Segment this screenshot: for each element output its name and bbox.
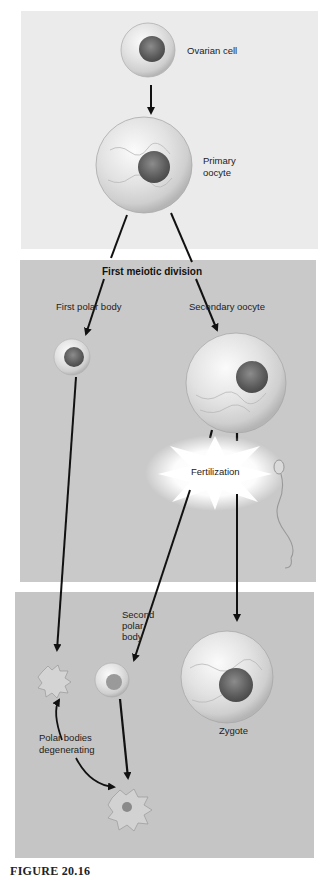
- label-polar-bodies-degenerating-line1: Polar bodies: [39, 732, 92, 743]
- primary-oocyte-icon: [96, 117, 192, 213]
- label-primary-oocyte-line1: Primary: [203, 155, 236, 166]
- label-zygote: Zygote: [219, 725, 248, 736]
- label-secondary-oocyte: Secondary oocyte: [189, 301, 265, 312]
- line-division-right-top: [171, 213, 192, 262]
- figure-caption: FIGURE 20.16: [10, 864, 90, 879]
- second-polar-body-icon: [95, 663, 129, 697]
- degenerating-polar-body-1-icon: [38, 665, 71, 698]
- label-first-meiotic-division: First meiotic division: [102, 266, 202, 277]
- label-polar-bodies-degenerating-line2: degenerating: [39, 744, 94, 755]
- label-second-polar-body-line2: polar: [122, 620, 143, 631]
- zygote-icon: [181, 631, 273, 723]
- arrow-first-polar-to-degenerating: [57, 377, 76, 650]
- label-fertilization: Fertilization: [191, 466, 240, 477]
- line-division-left-top: [111, 215, 127, 258]
- label-primary-oocyte-line2: oocyte: [203, 167, 231, 178]
- arrow-second-polar-to-degenerating: [120, 699, 128, 778]
- label-second-polar-body-line1: Second: [122, 609, 154, 620]
- secondary-oocyte-icon: [186, 333, 286, 433]
- label-first-polar-body: First polar body: [56, 301, 121, 312]
- first-polar-body-icon: [54, 339, 90, 375]
- label-second-polar-body-line3: body: [122, 631, 143, 642]
- ovarian-cell-icon: [121, 23, 175, 77]
- degenerating-polar-body-2-icon: [108, 789, 152, 831]
- label-ovarian-cell: Ovarian cell: [187, 45, 237, 56]
- curved-arrow-to-degenerating-2: [76, 758, 114, 787]
